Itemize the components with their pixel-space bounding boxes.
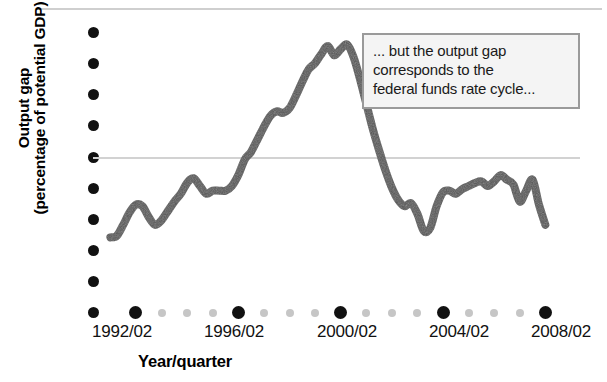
x-axis-major-tick-dot	[539, 306, 552, 319]
x-axis-minor-tick-dot	[362, 309, 370, 317]
x-axis-minor-tick-dot	[388, 309, 396, 317]
y-tick-4: 4	[0, 22, 99, 42]
y-tick-dot-minus-5	[88, 307, 99, 318]
x-tick-label-1996: 1996/02	[204, 322, 264, 342]
x-axis-minor-tick-dot	[183, 309, 191, 317]
x-axis-minor-tick-dot	[413, 309, 421, 317]
x-axis-minor-tick-dot	[158, 309, 166, 317]
x-axis-title: Year/quarter	[138, 352, 232, 371]
output-gap-chart-figure: Output gap (percentage of potential GDP)…	[0, 0, 607, 382]
x-axis-major-tick-dot	[129, 306, 142, 319]
x-axis-minor-tick-dot	[490, 309, 498, 317]
x-tick-label-1992: 1992/02	[92, 322, 152, 342]
annotation-line-1: ... but the output gap	[373, 41, 569, 60]
x-axis-minor-tick-dot	[311, 309, 319, 317]
y-tick-3: 3	[0, 53, 99, 73]
y-tick-0: 0	[0, 147, 99, 167]
x-axis-major-tick-dot	[232, 306, 245, 319]
y-tick-dot-minus-4	[88, 276, 99, 287]
annotation-line-3: federal funds rate cycle...	[373, 79, 569, 98]
x-tick-label-2004: 2004/02	[429, 322, 489, 342]
y-tick-dot-4	[88, 27, 99, 38]
y-tick-dot-3	[88, 58, 99, 69]
x-axis-major-tick-dot	[437, 306, 450, 319]
y-tick-dot-minus-1	[88, 183, 99, 194]
zero-reference-line	[93, 157, 580, 159]
x-axis-minor-tick-dot	[260, 309, 268, 317]
y-tick-1: 1	[0, 115, 99, 135]
y-tick-dot-minus-2	[88, 214, 99, 225]
y-tick-minus-2: –2	[0, 209, 99, 229]
y-tick-dot-1	[88, 120, 99, 131]
x-axis-major-tick-dot	[334, 306, 347, 319]
x-axis-minor-tick-dot	[209, 309, 217, 317]
y-tick-dot-2	[88, 89, 99, 100]
annotation-callout: ... but the output gap corresponds to th…	[362, 33, 580, 109]
x-axis-minor-tick-dot	[465, 309, 473, 317]
x-tick-label-2000: 2000/02	[317, 322, 377, 342]
y-tick-minus-4: –4	[0, 271, 99, 291]
x-tick-label-2008: 2008/02	[531, 322, 591, 342]
y-tick-minus-1: –1	[0, 178, 99, 198]
y-tick-minus-3: –3	[0, 240, 99, 260]
y-tick-2: 2	[0, 84, 99, 104]
y-tick-dot-minus-3	[88, 245, 99, 256]
x-axis-minor-tick-dot	[286, 309, 294, 317]
annotation-line-2: corresponds to the	[373, 60, 569, 79]
x-axis-minor-tick-dot	[516, 309, 524, 317]
plot-area: 4 3 2 1 0 –1 –2 –3	[0, 0, 607, 382]
y-tick-minus-5: –5	[0, 302, 99, 322]
